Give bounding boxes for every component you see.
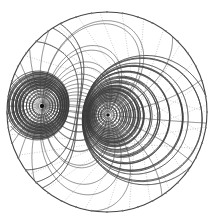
right-pole-marker [106,113,110,117]
field-lines-diagram [0,0,216,222]
left-pole-marker [40,104,44,108]
